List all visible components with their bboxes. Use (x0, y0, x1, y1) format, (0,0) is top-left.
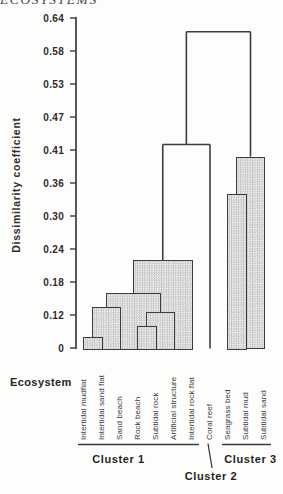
dendrogram-lines (0, 0, 283, 494)
figure-dendrogram: ECOSYSTEMS Dissimilarity coefficient 0.6… (0, 0, 283, 494)
